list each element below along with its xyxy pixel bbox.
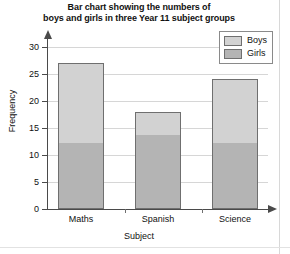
y-tick-label-0: 0 bbox=[18, 205, 39, 214]
legend-label-boys: Boys bbox=[247, 36, 267, 45]
legend-swatch-girls-icon bbox=[224, 49, 242, 59]
x-axis-arrow-icon bbox=[268, 205, 277, 213]
bar-segment-science-girls bbox=[213, 143, 257, 208]
x-tick-mark-1 bbox=[125, 209, 126, 213]
y-tick-label-15: 15 bbox=[18, 124, 39, 133]
y-tick-mark-20 bbox=[42, 101, 47, 102]
y-tick-label-30: 30 bbox=[18, 43, 39, 52]
x-category-label-maths: Maths bbox=[43, 214, 119, 224]
y-tick-mark-5 bbox=[42, 182, 47, 183]
bar-chart-figure: Bar chart showing the numbers of boys an… bbox=[0, 0, 290, 254]
legend-item-boys: Boys bbox=[224, 34, 267, 47]
legend-label-girls: Girls bbox=[247, 49, 266, 58]
bar-segment-science-boys bbox=[213, 80, 257, 145]
y-axis-title: Frequency bbox=[7, 75, 17, 147]
y-tick-label-5: 5 bbox=[18, 178, 39, 187]
y-tick-mark-15 bbox=[42, 128, 47, 129]
x-category-label-spanish: Spanish bbox=[120, 214, 196, 224]
x-axis-line bbox=[47, 209, 269, 210]
bar-segment-maths-girls bbox=[59, 143, 103, 208]
legend-item-girls: Girls bbox=[224, 47, 267, 60]
figure-right-border bbox=[279, 0, 280, 254]
figure-bottom-border bbox=[0, 247, 290, 248]
y-tick-label-25: 25 bbox=[18, 70, 39, 79]
y-tick-label-10: 10 bbox=[18, 151, 39, 160]
y-tick-label-20: 20 bbox=[18, 97, 39, 106]
y-tick-mark-30 bbox=[42, 47, 47, 48]
plot-area bbox=[48, 47, 268, 209]
y-tick-mark-25 bbox=[42, 74, 47, 75]
legend-swatch-boys-icon bbox=[224, 36, 242, 46]
chart-legend: Boys Girls bbox=[219, 31, 273, 64]
y-tick-mark-10 bbox=[42, 155, 47, 156]
x-axis-title: Subject bbox=[104, 231, 174, 241]
bar-segment-spanish-boys bbox=[136, 113, 180, 137]
x-tick-mark-2 bbox=[202, 209, 203, 213]
bar-spanish bbox=[135, 112, 181, 209]
bar-segment-maths-boys bbox=[59, 64, 103, 145]
chart-title-line-1: Bar chart showing the numbers of bbox=[0, 2, 278, 13]
chart-title: Bar chart showing the numbers of boys an… bbox=[0, 2, 278, 24]
bar-maths bbox=[58, 63, 104, 209]
bar-science bbox=[212, 79, 258, 209]
y-axis-arrow-icon bbox=[44, 30, 52, 39]
chart-title-line-2: boys and girls in three Year 11 subject … bbox=[0, 13, 278, 24]
bar-segment-spanish-girls bbox=[136, 135, 180, 208]
x-category-label-science: Science bbox=[197, 214, 273, 224]
